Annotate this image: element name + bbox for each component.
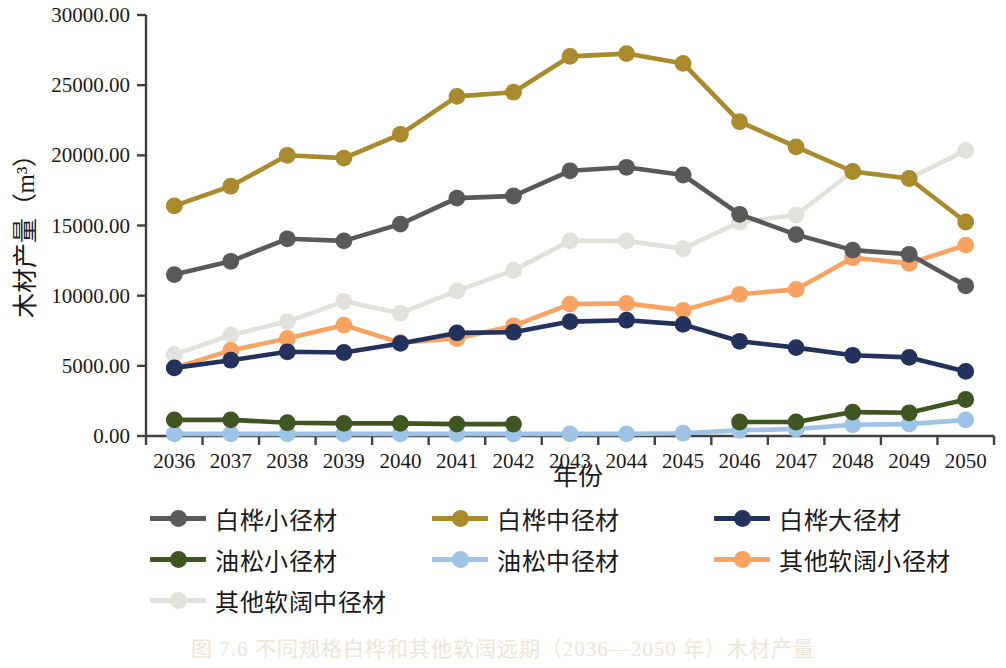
- chart-svg: 0.005000.0010000.0015000.0020000.0025000…: [0, 0, 1006, 492]
- legend-row: 白桦小径材白桦中径材白桦大径材: [150, 498, 940, 539]
- legend-row: 其他软阔中径材: [150, 580, 940, 621]
- data-point: [675, 240, 692, 257]
- data-point: [562, 233, 579, 250]
- line-chart: 0.005000.0010000.0015000.0020000.0025000…: [0, 0, 1006, 492]
- data-point: [336, 344, 353, 361]
- legend-label: 油松中径材: [497, 542, 620, 577]
- x-tick-label: 2041: [436, 449, 478, 473]
- data-point: [222, 352, 239, 369]
- data-point: [844, 347, 861, 364]
- y-axis-tick-labels: 0.005000.0010000.0015000.0020000.0025000…: [51, 3, 130, 448]
- data-point: [392, 305, 409, 322]
- data-point: [562, 162, 579, 179]
- data-point: [901, 404, 918, 421]
- legend-item-other-small[interactable]: 其他软阔小径材: [714, 542, 940, 577]
- legend-item-birch-large[interactable]: 白桦大径材: [714, 501, 940, 536]
- data-point: [562, 296, 579, 313]
- x-tick-label: 2047: [775, 449, 817, 473]
- data-point: [957, 142, 974, 159]
- data-point: [449, 88, 466, 105]
- data-point: [392, 415, 409, 432]
- data-point: [222, 253, 239, 270]
- legend-row: 油松小径材油松中径材其他软阔小径材: [150, 539, 940, 580]
- data-point: [449, 416, 466, 433]
- data-point: [336, 233, 353, 250]
- legend-label: 白桦大径材: [779, 501, 902, 536]
- data-point: [562, 48, 579, 65]
- legend-label: 油松小径材: [215, 542, 338, 577]
- legend-swatch-icon: [432, 550, 488, 570]
- data-point: [449, 190, 466, 207]
- data-point: [505, 188, 522, 205]
- x-tick-label: 2038: [266, 449, 308, 473]
- data-point: [336, 415, 353, 432]
- x-tick-label: 2037: [210, 449, 252, 473]
- legend-item-birch-small[interactable]: 白桦小径材: [150, 501, 432, 536]
- x-tick-label: 2036: [153, 449, 195, 473]
- y-tick-label: 30000.00: [51, 3, 130, 27]
- data-point: [731, 333, 748, 350]
- x-tick-label: 2045: [662, 449, 704, 473]
- data-point: [166, 360, 183, 377]
- data-point: [618, 159, 635, 176]
- data-point: [618, 295, 635, 312]
- data-point: [844, 242, 861, 259]
- data-point: [788, 207, 805, 224]
- data-point: [279, 313, 296, 330]
- data-point: [505, 84, 522, 101]
- axis-lines: [137, 15, 994, 445]
- data-point: [957, 214, 974, 231]
- data-point: [844, 404, 861, 421]
- data-point: [222, 178, 239, 195]
- legend-label: 白桦小径材: [215, 501, 338, 536]
- x-tick-label: 2049: [888, 449, 930, 473]
- legend-swatch-icon: [432, 509, 488, 529]
- data-point: [957, 391, 974, 408]
- series-layer: [166, 45, 974, 442]
- x-tick-label: 2048: [832, 449, 874, 473]
- legend-swatch-icon: [714, 509, 770, 529]
- data-point: [505, 262, 522, 279]
- figure-page: 0.005000.0010000.0015000.0020000.0025000…: [0, 0, 1006, 668]
- data-point: [449, 325, 466, 342]
- data-point: [166, 266, 183, 283]
- y-tick-label: 15000.00: [51, 214, 130, 238]
- x-tick-label: 2039: [323, 449, 365, 473]
- data-point: [675, 316, 692, 333]
- data-point: [788, 281, 805, 298]
- data-point: [222, 327, 239, 344]
- data-point: [675, 425, 692, 442]
- data-point: [336, 317, 353, 334]
- data-point: [222, 412, 239, 429]
- x-tick-label: 2042: [492, 449, 534, 473]
- data-point: [957, 237, 974, 254]
- data-point: [392, 216, 409, 233]
- data-point: [449, 282, 466, 299]
- y-tick-label: 0.00: [93, 424, 130, 448]
- data-point: [279, 414, 296, 431]
- data-point: [844, 163, 861, 180]
- data-point: [731, 206, 748, 223]
- data-point: [392, 335, 409, 352]
- x-tick-label: 2044: [606, 449, 649, 473]
- data-point: [731, 113, 748, 130]
- legend-item-birch-medium[interactable]: 白桦中径材: [432, 501, 714, 536]
- y-tick-label: 10000.00: [51, 284, 130, 308]
- data-point: [731, 286, 748, 303]
- y-tick-label: 25000.00: [51, 73, 130, 97]
- data-point: [788, 226, 805, 243]
- legend-item-pine-small[interactable]: 油松小径材: [150, 542, 432, 577]
- y-axis-title: 木材产量（m³）: [12, 142, 39, 319]
- legend-item-other-medium[interactable]: 其他软阔中径材: [150, 583, 432, 618]
- data-point: [392, 126, 409, 143]
- x-tick-label: 2046: [719, 449, 761, 473]
- data-point: [675, 167, 692, 184]
- data-point: [901, 349, 918, 366]
- series-1: [166, 45, 974, 230]
- data-point: [957, 412, 974, 429]
- data-point: [788, 414, 805, 431]
- y-tick-label: 20000.00: [51, 143, 130, 167]
- figure-caption: 图 7.6 不同规格白桦和其他软阔远期（2036—2050 年）木材产量: [0, 632, 1006, 662]
- legend-item-pine-medium[interactable]: 油松中径材: [432, 542, 714, 577]
- data-point: [279, 147, 296, 164]
